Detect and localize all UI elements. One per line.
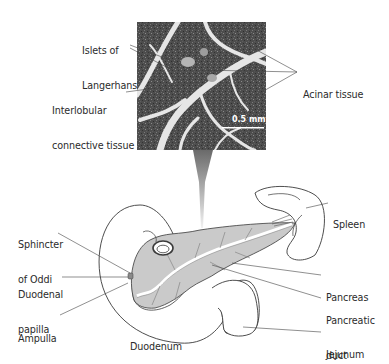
label-line: Duodenal: [18, 289, 63, 301]
label-line: Sphincter: [18, 239, 63, 251]
micrograph: [137, 22, 266, 150]
label-line: connective tissue: [52, 140, 134, 152]
label-line: Jejunum: [326, 349, 364, 361]
label-line: Interlobular: [52, 105, 134, 117]
duodenal-papilla: [128, 273, 133, 279]
label-line: Islets of: [82, 45, 137, 57]
label-jejunum: Jejunum: [326, 326, 364, 364]
label-line: Pancreatic: [326, 315, 375, 327]
label-line: Spleen: [333, 219, 365, 231]
label-spleen: Spleen: [333, 196, 365, 254]
label-line: Acinar tissue: [303, 89, 363, 101]
label-interlobular-connective-tissue: Interlobular connective tissue: [52, 82, 134, 174]
label-acinar-tissue: Acinar tissue: [303, 66, 363, 124]
label-duodenum: Duodenum: [130, 318, 182, 364]
label-ampulla: Ampulla: [18, 310, 57, 364]
label-line: Duodenum: [130, 341, 182, 353]
label-line: Ampulla: [18, 333, 57, 345]
magnification-arrow: [193, 150, 213, 228]
scale-bar-label: 0.5 mm: [232, 115, 266, 124]
